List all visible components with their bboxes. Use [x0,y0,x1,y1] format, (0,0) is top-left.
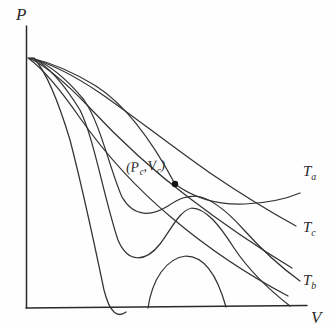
curve-label-tc-sub: c [311,227,316,238]
pv-isotherm-svg: P V (Pc,Vc) Ta Tc Tb [0,0,334,328]
crit-close-paren: ) [159,157,166,173]
critical-point-label: (Pc,Vc) [125,157,166,178]
isotherm-curve-tb [33,58,290,306]
curve-label-ta-sub: a [311,171,316,182]
isotherm-curve-lowest [34,58,126,314]
curve-label-ta: Ta [303,163,316,182]
y-axis-label: P [15,5,26,24]
svg-text:(Pc,Vc): (Pc,Vc) [125,157,166,178]
curve-label-tb-sub: b [311,280,316,291]
isotherm-curve-ta [28,58,288,296]
svg-text:Ta: Ta [303,163,316,182]
curve-label-tb: Tb [303,272,316,291]
pv-isotherm-figure: P V (Pc,Vc) Ta Tc Tb [0,0,334,328]
isotherm-curve-tc [31,58,300,204]
critical-point-dot [172,181,178,187]
svg-text:Tb: Tb [303,272,316,291]
x-axis-line [26,306,307,309]
x-axis-label: V [311,308,324,327]
svg-text:Tc: Tc [303,219,316,238]
isotherm-curve-lowest-hump [148,256,226,308]
curve-label-tc: Tc [303,219,316,238]
